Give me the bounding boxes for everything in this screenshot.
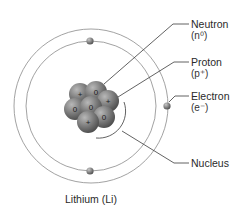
- proton-leader-line: [118, 62, 189, 97]
- electron-name: Electron: [191, 90, 230, 102]
- electron-right: [163, 102, 170, 109]
- neutron-symbol: (n⁰): [191, 30, 228, 42]
- electron-leader-line: [169, 96, 189, 102]
- nucleus-name: Nucleus: [191, 157, 229, 169]
- svg-text:0: 0: [89, 103, 94, 112]
- nucleus-leader-line: [122, 131, 189, 163]
- nucleus-label: Nucleus: [191, 157, 229, 169]
- electron-symbol: (e⁻): [191, 102, 230, 114]
- proton-symbol: (p⁺): [191, 68, 222, 80]
- neutron-label: Neutron (n⁰): [191, 18, 228, 42]
- electron-bottom: [86, 167, 93, 174]
- svg-text:+: +: [86, 118, 91, 127]
- proton-name: Proton: [191, 56, 222, 68]
- svg-text:0: 0: [102, 113, 107, 122]
- neutron-name: Neutron: [191, 18, 228, 30]
- electron-label: Electron (e⁻): [191, 90, 230, 114]
- svg-text:0: 0: [94, 88, 99, 97]
- nucleus: + 0 0 + 0 0 +: [64, 81, 119, 133]
- electron-top: [86, 37, 93, 44]
- neutron-leader-line: [104, 24, 189, 84]
- svg-text:0: 0: [73, 105, 78, 114]
- svg-text:+: +: [106, 97, 111, 106]
- diagram-caption: Lithium (Li): [65, 193, 117, 205]
- svg-text:+: +: [78, 90, 83, 99]
- proton-label: Proton (p⁺): [191, 56, 222, 80]
